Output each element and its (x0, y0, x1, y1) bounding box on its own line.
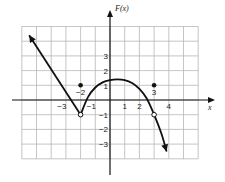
y-axis-arrow-icon (107, 10, 113, 17)
y-tick-label: −1 (99, 111, 109, 120)
x-tick-label: 2 (137, 102, 142, 111)
x-tick-label: 1 (122, 102, 127, 111)
y-tick-label: −3 (99, 140, 109, 149)
closed-point (78, 83, 83, 88)
y-tick-label: −2 (99, 125, 109, 134)
point-label: −2 (76, 88, 86, 97)
x-tick-label: −1 (87, 102, 97, 111)
y-tick-label: 2 (104, 67, 109, 76)
y-tick-label: 1 (104, 82, 109, 91)
x-axis-title: x (207, 103, 212, 112)
y-axis-title: F(x) (114, 4, 129, 13)
closed-point (152, 83, 157, 88)
x-tick-label: −3 (57, 102, 67, 111)
point-label: 3 (152, 88, 157, 97)
function-graph: −3−1124321−1−2−3−23 F(x) x (0, 0, 225, 182)
y-tick-label: 3 (104, 52, 109, 61)
axes (12, 10, 215, 175)
open-point (152, 112, 157, 117)
open-point (78, 112, 83, 117)
x-tick-label: 4 (167, 102, 172, 111)
